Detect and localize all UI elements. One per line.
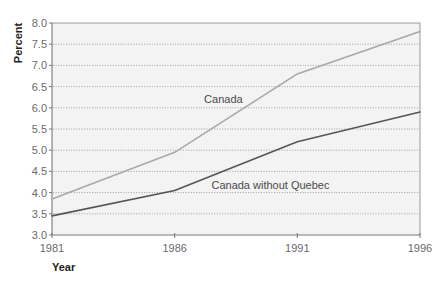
annotation-label: Canada (204, 93, 243, 105)
x-tick-label: 1986 (162, 242, 186, 254)
y-tick-label: 6.0 (32, 102, 47, 114)
y-axis-title: Percent (12, 22, 24, 63)
y-axis-ticks: 3.03.54.04.55.05.56.06.57.07.58.0 (32, 17, 52, 241)
y-tick-label: 4.0 (32, 187, 47, 199)
x-tick-label: 1991 (285, 242, 309, 254)
y-tick-label: 6.5 (32, 81, 47, 93)
y-tick-label: 5.5 (32, 123, 47, 135)
y-tick-label: 5.0 (32, 144, 47, 156)
x-tick-label: 1981 (40, 242, 64, 254)
y-tick-label: 3.5 (32, 208, 47, 220)
y-tick-label: 3.0 (32, 229, 47, 241)
annotation-label: Canada without Quebec (211, 179, 330, 191)
x-axis-ticks: 1981198619911996 (40, 233, 432, 254)
x-tick-label: 1996 (408, 242, 432, 254)
y-tick-label: 4.5 (32, 165, 47, 177)
y-tick-label: 7.5 (32, 38, 47, 50)
x-axis-title: Year (52, 261, 76, 273)
y-tick-label: 8.0 (32, 17, 47, 29)
line-chart: 3.03.54.04.55.05.56.06.57.07.58.0 198119… (0, 0, 448, 285)
y-tick-label: 7.0 (32, 59, 47, 71)
